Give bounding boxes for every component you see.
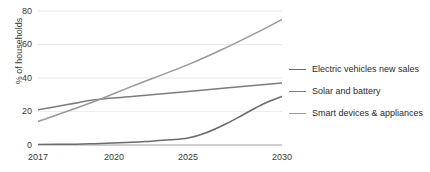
- y-tick-60: 60: [6, 39, 32, 49]
- series-line-solar-and-battery: [38, 83, 282, 110]
- legend-label-solar: Solar and battery: [312, 86, 381, 96]
- legend-item-smart-devices-appliances[interactable]: Smart devices & appliances: [289, 102, 430, 124]
- gridlines: [38, 11, 282, 112]
- x-tick-2020: 2020: [94, 152, 134, 162]
- x-tick-2025: 2025: [168, 152, 208, 162]
- series-line-smart-devices-appliances: [38, 19, 282, 121]
- line-chart: % of households 80 60 40 20 0 2017 2020 …: [0, 0, 430, 172]
- x-tick-2030: 2030: [262, 152, 302, 162]
- legend-swatch-icon-smart: [289, 113, 306, 114]
- x-tick-2017: 2017: [18, 152, 58, 162]
- y-tick-0: 0: [6, 140, 32, 150]
- legend-label-smart: Smart devices & appliances: [312, 108, 423, 118]
- legend-swatch-icon-solar: [289, 91, 306, 92]
- y-tick-40: 40: [6, 73, 32, 83]
- y-tick-80: 80: [6, 6, 32, 16]
- y-tick-20: 20: [6, 106, 32, 116]
- chart-legend: Electric vehicles new sales Solar and ba…: [289, 58, 430, 124]
- legend-item-electric-vehicles-new-sales[interactable]: Electric vehicles new sales: [289, 58, 430, 80]
- legend-swatch-icon-ev: [289, 69, 306, 70]
- legend-label-ev: Electric vehicles new sales: [312, 64, 419, 74]
- legend-item-solar-and-battery[interactable]: Solar and battery: [289, 80, 430, 102]
- series-lines: [38, 19, 282, 144]
